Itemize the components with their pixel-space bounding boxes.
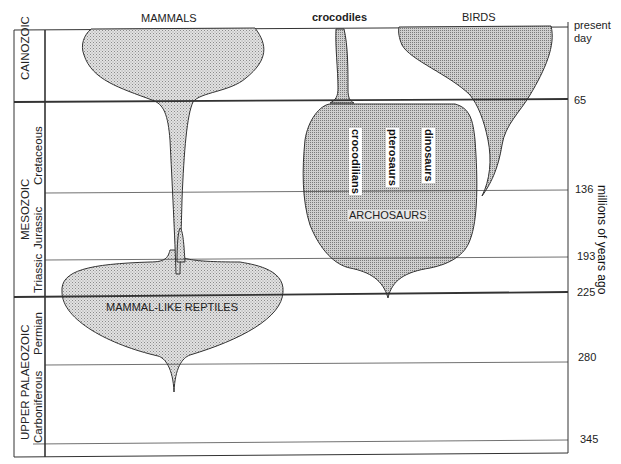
tick-225: 225 bbox=[577, 287, 595, 298]
pterosaurs-label: pterosaurs bbox=[386, 128, 399, 187]
archosaurs-label: ARCHOSAURS bbox=[348, 210, 428, 221]
tick-280: 280 bbox=[578, 352, 596, 363]
era-upper-palaeozoic: UPPER PALAEOZOIC bbox=[20, 325, 32, 440]
period-carboniferous: Carboniferous bbox=[33, 371, 45, 443]
period-cretaceous: Cretaceous bbox=[33, 126, 45, 185]
crocodiles-label: crocodiles bbox=[312, 12, 367, 23]
mammals-label: MAMMALS bbox=[141, 13, 197, 24]
period-jurassic: Jurassic bbox=[33, 207, 45, 249]
era-cainozoic: CAINOZOIC bbox=[20, 16, 32, 80]
tick-136: 136 bbox=[575, 184, 593, 195]
period-triassic: Triassic bbox=[33, 254, 45, 293]
axis-label: millions of years ago bbox=[595, 184, 609, 295]
era-mesozoic: MESOZOIC bbox=[20, 179, 32, 240]
tick-345: 345 bbox=[580, 434, 598, 445]
mammal-like-reptiles-spindle bbox=[62, 250, 283, 392]
mammals-spindle bbox=[82, 28, 263, 274]
present-label-line2: day bbox=[574, 33, 592, 44]
tick-65: 65 bbox=[574, 95, 586, 106]
present-label-line1: present bbox=[574, 20, 611, 31]
mammal-like-reptiles-label: MAMMAL-LIKE REPTILES bbox=[106, 302, 238, 313]
dinosaurs-label: dinosaurs bbox=[422, 128, 435, 183]
evolution-spindle-diagram: MAMMALS crocodiles BIRDS present day 65 … bbox=[0, 0, 621, 464]
crocodiles-spindle bbox=[330, 29, 354, 103]
period-permian: Permian bbox=[33, 312, 45, 355]
crocodilians-label: crocodilians bbox=[349, 128, 362, 195]
tick-193: 193 bbox=[577, 251, 595, 262]
diagram-canvas bbox=[0, 0, 621, 464]
birds-label: BIRDS bbox=[462, 12, 496, 23]
